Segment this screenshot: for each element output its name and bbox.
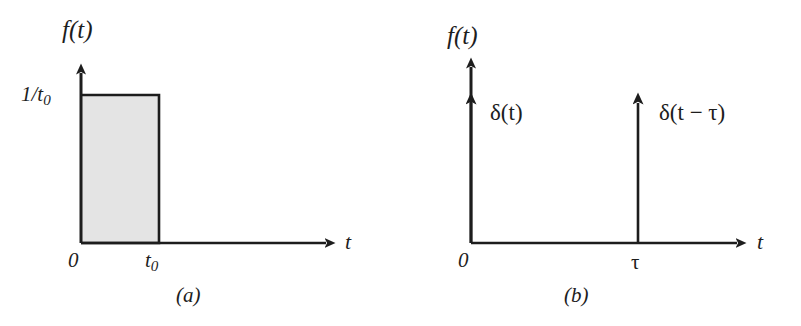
panel-a-duration-subscript: 0 [151,258,159,274]
panel-a-plot [0,0,400,326]
panel-b-y-axis-label: f(t) [447,23,478,48]
panel-a-amplitude-label: 1/t0 [21,84,51,108]
panel-b-x-axis-label: t [757,231,763,253]
panel-b-origin-tick: 0 [458,250,469,271]
panel-b: f(t) δ(t) δ(t − τ) 0 τ t (b) [400,0,801,326]
panel-a: f(t) 1/t0 0 t0 t (a) [0,0,400,326]
panel-a-duration-tick: t0 [145,250,158,274]
panel-b-tau-tick: τ [631,252,639,273]
impulse-at-tau-label: δ(t − τ) [659,101,725,124]
pulse-rectangle-fill [81,95,159,243]
panel-a-origin-tick: 0 [68,250,79,271]
panel-a-caption: (a) [176,285,201,306]
impulse-at-zero-label: δ(t) [490,101,523,124]
panel-b-caption: (b) [564,285,589,306]
panel-a-x-axis-label: t [345,231,351,253]
panel-a-amplitude-subscript: 0 [43,92,51,108]
figure-root: f(t) 1/t0 0 t0 t (a) [0,0,801,326]
panel-a-y-axis-label: f(t) [62,17,93,42]
